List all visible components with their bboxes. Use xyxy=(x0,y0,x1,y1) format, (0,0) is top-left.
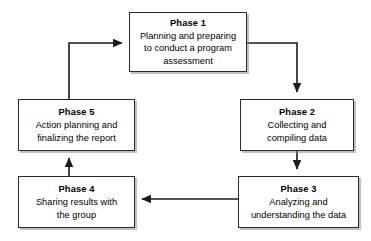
phase-3-description-line-1: Analyzing and xyxy=(269,196,327,208)
phase-2-description-line-1: Collecting and xyxy=(268,119,327,131)
edge-phase1-to-phase2 xyxy=(247,43,297,92)
phase-3-node[interactable]: Phase 3 Analyzing and understanding the … xyxy=(238,176,359,228)
phase-5-description-line-1: Action planning and xyxy=(36,119,118,131)
phase-2-node[interactable]: Phase 2 Collecting and compiling data xyxy=(240,99,354,151)
process-flowchart: Phase 1 Planning and preparing to conduc… xyxy=(0,0,371,241)
phase-4-description-line-1: Sharing results with xyxy=(36,196,117,208)
phase-5-description-line-2: finalizing the report xyxy=(37,132,116,144)
phase-1-node[interactable]: Phase 1 Planning and preparing to conduc… xyxy=(129,12,247,72)
phase-5-node[interactable]: Phase 5 Action planning and finalizing t… xyxy=(18,99,135,151)
phase-2-description-line-2: compiling data xyxy=(267,132,327,144)
phase-1-title: Phase 1 xyxy=(170,17,206,30)
phase-4-description-line-2: the group xyxy=(57,209,96,221)
phase-3-description-line-2: understanding the data xyxy=(251,209,346,221)
phase-1-description-line-3: assessment xyxy=(163,55,213,67)
phase-4-node[interactable]: Phase 4 Sharing results with the group xyxy=(18,176,135,228)
edge-phase5-to-phase1 xyxy=(69,43,122,99)
phase-3-title: Phase 3 xyxy=(281,183,317,196)
phase-1-description-line-2: to conduct a program xyxy=(144,42,232,54)
phase-1-description-line-1: Planning and preparing xyxy=(140,30,236,42)
phase-4-title: Phase 4 xyxy=(59,183,95,196)
phase-2-title: Phase 2 xyxy=(279,106,315,119)
phase-5-title: Phase 5 xyxy=(59,106,95,119)
